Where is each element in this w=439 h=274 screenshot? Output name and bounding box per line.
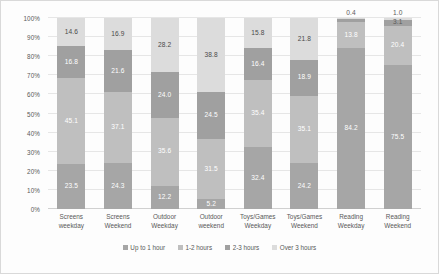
x-axis-labels: ScreensweekdayScreensWeekendOutdoorWeekd… — [48, 212, 421, 238]
bar-value-label: 24.2 — [298, 183, 311, 190]
bar-value-label: 38.8 — [205, 52, 218, 59]
bar-value-label: 13.8 — [344, 32, 357, 39]
bar-column[interactable]: 15.816.435.432.4 — [244, 18, 272, 209]
legend-item[interactable]: 1-2 hours — [178, 244, 212, 251]
y-axis: 0%10%20%30%40%50%60%70%80%90%100% — [1, 18, 45, 209]
bar-value-label: 35.4 — [251, 110, 264, 117]
bar-value-label: 32.4 — [251, 175, 264, 182]
bar-segment[interactable]: 31.5 — [197, 139, 225, 199]
bar-value-label: 5.2 — [206, 201, 215, 208]
chart-container: 0%10%20%30%40%50%60%70%80%90%100% 14.616… — [0, 0, 439, 274]
bar-value-label: 14.6 — [65, 29, 78, 36]
bar-segment[interactable]: 18.9 — [290, 60, 318, 96]
chart-legend: Up to 1 hour1-2 hours2-3 hoursOver 3 hou… — [1, 244, 438, 251]
bar-segment[interactable]: 24.2 — [290, 163, 318, 209]
bar-column[interactable]: 16.921.637.124.3 — [104, 18, 132, 209]
bar-value-label: 35.6 — [158, 148, 171, 155]
y-axis-tick-label: 20% — [27, 167, 40, 174]
bar-value-label: 21.6 — [111, 68, 124, 75]
bar-segment[interactable]: 35.4 — [244, 80, 272, 148]
bar-segment[interactable]: 16.4 — [244, 48, 272, 79]
legend-swatch-icon — [123, 245, 128, 250]
bar-segment[interactable]: 23.5 — [57, 164, 85, 209]
bar-value-label: 0.4 — [346, 10, 355, 17]
x-axis-category-label: Screensweekday — [49, 212, 93, 238]
x-axis-category-label: ReadingWeekend — [376, 212, 420, 238]
bar-segment[interactable]: 37.1 — [104, 92, 132, 163]
bar-segment[interactable]: 15.8 — [244, 18, 272, 48]
bar-value-label: 24.3 — [111, 183, 124, 190]
bar-value-label: 20.4 — [391, 42, 404, 49]
bar-value-label: 45.1 — [65, 118, 78, 125]
bar-value-label: 16.4 — [251, 61, 264, 68]
bar-segment[interactable]: 28.2 — [151, 18, 179, 72]
y-axis-tick-label: 90% — [27, 34, 40, 41]
y-axis-tick-label: 70% — [27, 72, 40, 79]
bar-value-label: 18.9 — [298, 74, 311, 81]
bar-segment[interactable]: 84.2 — [337, 48, 365, 209]
legend-label: Up to 1 hour — [130, 244, 165, 251]
bar-segment[interactable]: 24.0 — [151, 72, 179, 118]
y-axis-tick-label: 10% — [27, 186, 40, 193]
x-axis-category-label: Outdoorweekend — [189, 212, 233, 238]
bar-value-label: 16.8 — [65, 59, 78, 66]
bar-value-label: 12.2 — [158, 194, 171, 201]
legend-item[interactable]: 2-3 hours — [225, 244, 259, 251]
bar-segment[interactable]: 21.6 — [104, 50, 132, 91]
legend-item[interactable]: Over 3 hours — [272, 244, 316, 251]
bar-value-label: 28.2 — [158, 42, 171, 49]
bar-value-label: 23.5 — [65, 183, 78, 190]
bar-column[interactable]: 21.818.935.124.2 — [290, 18, 318, 209]
bar-column[interactable]: 14.616.845.123.5 — [57, 18, 85, 209]
x-axis-category-label: Toys/GamesWeekend — [282, 212, 326, 238]
bar-segment[interactable]: 13.8 — [337, 22, 365, 48]
legend-item[interactable]: Up to 1 hour — [123, 244, 165, 251]
bar-group: 14.616.845.123.516.921.637.124.328.224.0… — [48, 18, 421, 209]
y-axis-tick-label: 30% — [27, 148, 40, 155]
x-axis-category-label: Toys/GamesWeekday — [236, 212, 280, 238]
bar-value-label: 15.8 — [251, 30, 264, 37]
bar-segment[interactable]: 35.6 — [151, 118, 179, 186]
bar-column[interactable]: 38.824.531.55.2 — [197, 18, 225, 209]
bar-segment[interactable]: 16.9 — [104, 18, 132, 50]
bar-segment[interactable]: 75.5 — [384, 65, 412, 209]
x-axis-category-label: ReadingWeekday — [329, 212, 373, 238]
x-axis-category-label: OutdoorWeekday — [143, 212, 187, 238]
bar-segment[interactable]: 16.8 — [57, 46, 85, 78]
bar-column[interactable]: 28.224.035.612.2 — [151, 18, 179, 209]
legend-label: Over 3 hours — [280, 244, 316, 251]
bar-segment[interactable]: 24.3 — [104, 163, 132, 209]
bar-value-label: 16.9 — [111, 31, 124, 38]
x-axis-category-label: ScreensWeekend — [96, 212, 140, 238]
y-axis-tick-label: 100% — [23, 15, 40, 22]
bar-segment[interactable]: 45.1 — [57, 78, 85, 164]
bar-segment[interactable]: 24.5 — [197, 92, 225, 139]
bar-value-label: 75.5 — [391, 134, 404, 141]
bar-segment[interactable]: 20.4 — [384, 26, 412, 65]
legend-swatch-icon — [272, 245, 277, 250]
legend-swatch-icon — [178, 245, 183, 250]
bar-value-label: 35.1 — [298, 126, 311, 133]
bar-segment[interactable]: 14.6 — [57, 18, 85, 46]
bar-column[interactable]: 1.03.120.475.5 — [384, 18, 412, 209]
bar-value-label: 24.5 — [205, 112, 218, 119]
bar-segment[interactable]: 5.2 — [197, 199, 225, 209]
y-axis-tick-label: 50% — [27, 110, 40, 117]
bar-segment[interactable]: 35.1 — [290, 96, 318, 163]
bar-segment[interactable]: 32.4 — [244, 147, 272, 209]
legend-label: 2-3 hours — [233, 244, 260, 251]
y-axis-tick-label: 80% — [27, 53, 40, 60]
bar-value-label: 31.5 — [205, 166, 218, 173]
bar-value-label: 21.8 — [298, 36, 311, 43]
bar-column[interactable]: 0.413.884.2 — [337, 18, 365, 209]
y-axis-tick-label: 0% — [31, 206, 40, 213]
legend-label: 1-2 hours — [186, 244, 213, 251]
bar-segment[interactable]: 12.2 — [151, 186, 179, 209]
bar-value-label: 84.2 — [344, 125, 357, 132]
bar-segment[interactable]: 21.8 — [290, 18, 318, 60]
bar-value-label: 1.0 — [393, 10, 402, 17]
bar-segment[interactable]: 38.8 — [197, 18, 225, 92]
legend-swatch-icon — [225, 245, 230, 250]
y-axis-tick-label: 60% — [27, 91, 40, 98]
bar-value-label: 37.1 — [111, 124, 124, 131]
